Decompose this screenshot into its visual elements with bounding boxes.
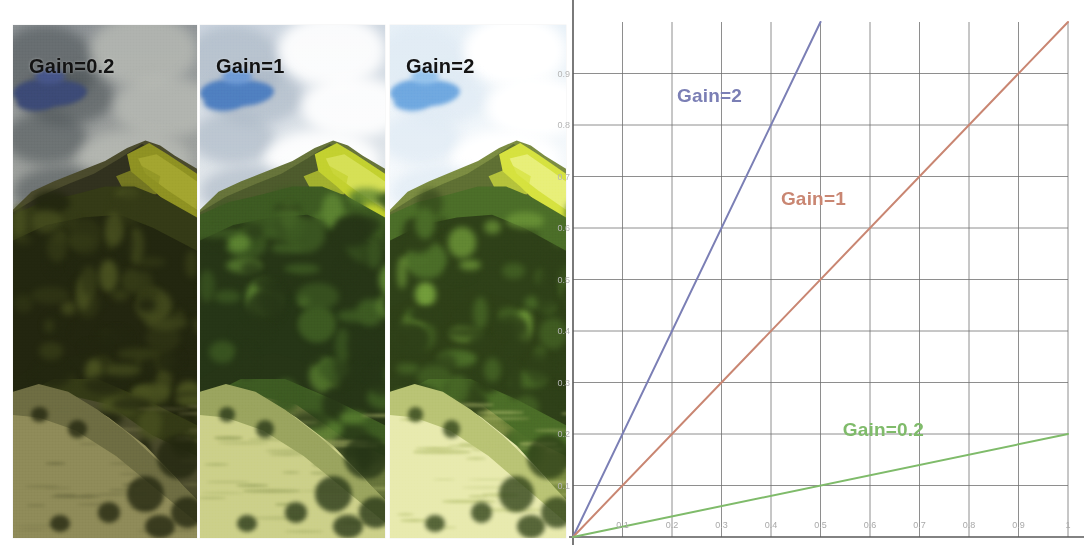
y-axis-tick-label: 0.8 xyxy=(557,120,570,130)
y-axis-tick-label: 0.2 xyxy=(557,429,570,439)
transfer-curve-chart: 0.10.20.30.40.50.60.70.80.910.10.20.30.4… xyxy=(0,0,1087,558)
series-annotation-gain-2: Gain=2 xyxy=(677,85,742,107)
y-axis-tick-label: 0.4 xyxy=(557,326,570,336)
figure-root: Gain=0.2Gain=1Gain=2 0.10.20.30.40.50.60… xyxy=(0,0,1087,558)
x-axis-tick-label: 0.7 xyxy=(913,520,926,530)
x-axis-tick-label: 0.2 xyxy=(666,520,679,530)
x-axis-tick-label: 0.8 xyxy=(963,520,976,530)
y-axis-tick-label: 0.1 xyxy=(557,481,570,491)
x-axis-tick-label: 0.5 xyxy=(814,520,827,530)
y-axis-tick-label: 0.5 xyxy=(557,275,570,285)
x-axis-tick-label: 0.1 xyxy=(616,520,629,530)
y-axis-tick-label: 0.9 xyxy=(557,69,570,79)
y-axis-tick-label: 0.6 xyxy=(557,223,570,233)
series-annotation-gain-0-2: Gain=0.2 xyxy=(843,419,924,441)
x-axis-tick-label: 0.9 xyxy=(1012,520,1025,530)
chart-canvas xyxy=(0,0,1087,558)
x-axis-tick-label: 1 xyxy=(1065,520,1070,530)
x-axis-tick-label: 0.4 xyxy=(765,520,778,530)
y-axis-tick-label: 0.7 xyxy=(557,172,570,182)
x-axis-tick-label: 0.6 xyxy=(864,520,877,530)
series-annotation-gain-1: Gain=1 xyxy=(781,188,846,210)
y-axis-tick-label: 0.3 xyxy=(557,378,570,388)
x-axis-tick-label: 0.3 xyxy=(715,520,728,530)
